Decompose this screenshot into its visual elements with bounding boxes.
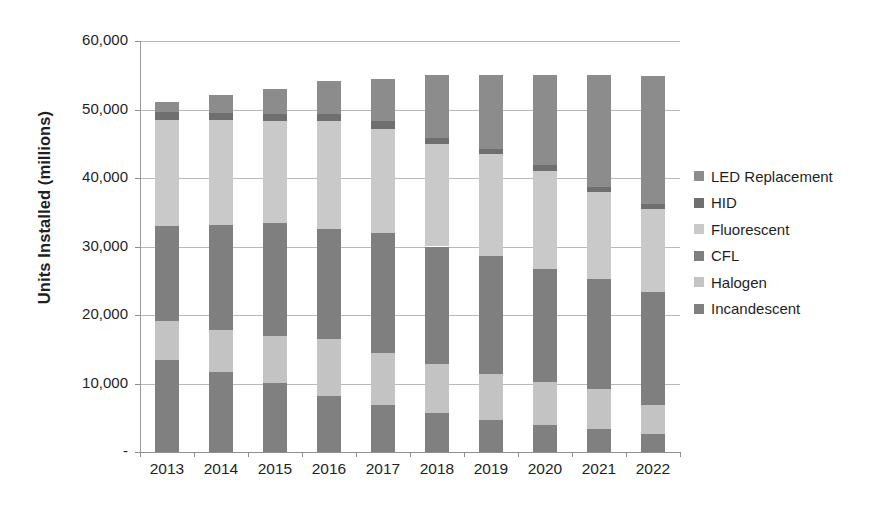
legend-item-incandescent[interactable]: Incandescent — [694, 296, 890, 323]
bar-segment-led-replacement[interactable] — [263, 89, 287, 114]
bar-segment-halogen[interactable] — [263, 336, 287, 383]
x-axis-tick-label: 2018 — [410, 460, 464, 478]
bar-segment-led-replacement[interactable] — [425, 75, 449, 138]
bar-segment-incandescent[interactable] — [641, 434, 665, 452]
bar-segment-fluorescent[interactable] — [263, 121, 287, 223]
bar-segment-fluorescent[interactable] — [425, 144, 449, 246]
bar-segment-hid[interactable] — [209, 113, 233, 121]
bar-segment-incandescent[interactable] — [155, 360, 179, 452]
bar-segment-led-replacement[interactable] — [587, 75, 611, 187]
bar-segment-fluorescent[interactable] — [209, 120, 233, 224]
legend-item-hid[interactable]: HID — [694, 190, 890, 217]
bar-segment-halogen[interactable] — [209, 330, 233, 372]
bar-segment-incandescent[interactable] — [371, 405, 395, 452]
x-axis-tick-label: 2022 — [626, 460, 680, 478]
x-axis-tick — [626, 452, 627, 457]
legend-item-halogen[interactable]: Halogen — [694, 269, 890, 296]
bar-segment-led-replacement[interactable] — [209, 95, 233, 113]
bar-segment-cfl[interactable] — [425, 247, 449, 365]
bar-segment-incandescent[interactable] — [425, 413, 449, 452]
bar-segment-incandescent[interactable] — [479, 420, 503, 452]
bar-segment-cfl[interactable] — [263, 223, 287, 335]
x-axis-tick-label: 2020 — [518, 460, 572, 478]
bar-segment-cfl[interactable] — [479, 256, 503, 374]
x-axis-tick — [302, 452, 303, 457]
bar-segment-halogen[interactable] — [479, 374, 503, 420]
bar-segment-incandescent[interactable] — [317, 396, 341, 452]
bar-2017[interactable] — [371, 41, 395, 452]
bar-segment-halogen[interactable] — [425, 364, 449, 413]
bar-segment-halogen[interactable] — [155, 321, 179, 359]
bar-segment-hid[interactable] — [479, 149, 503, 154]
bar-segment-fluorescent[interactable] — [371, 129, 395, 234]
legend-label: HID — [711, 194, 737, 211]
bar-segment-halogen[interactable] — [641, 405, 665, 434]
bar-segment-led-replacement[interactable] — [641, 76, 665, 204]
bar-segment-led-replacement[interactable] — [155, 102, 179, 112]
bar-2018[interactable] — [425, 41, 449, 452]
bar-segment-incandescent[interactable] — [209, 372, 233, 452]
bar-segment-hid[interactable] — [317, 114, 341, 121]
bar-segment-cfl[interactable] — [371, 233, 395, 353]
bar-segment-led-replacement[interactable] — [479, 75, 503, 149]
bar-segment-fluorescent[interactable] — [587, 192, 611, 280]
bar-segment-halogen[interactable] — [587, 389, 611, 429]
x-axis-tick — [194, 452, 195, 457]
legend-label: Incandescent — [711, 300, 800, 317]
plot-area — [140, 41, 680, 452]
x-axis-tick — [410, 452, 411, 457]
bar-segment-incandescent[interactable] — [587, 429, 611, 452]
bar-2014[interactable] — [209, 41, 233, 452]
y-axis-tick — [135, 110, 141, 111]
legend-item-fluorescent[interactable]: Fluorescent — [694, 216, 890, 243]
bar-2013[interactable] — [155, 41, 179, 452]
x-axis-tick — [572, 452, 573, 457]
bar-segment-cfl[interactable] — [533, 269, 557, 382]
bar-2022[interactable] — [641, 41, 665, 452]
bar-segment-hid[interactable] — [155, 112, 179, 120]
bar-segment-halogen[interactable] — [317, 339, 341, 396]
bar-2020[interactable] — [533, 41, 557, 452]
bar-segment-fluorescent[interactable] — [533, 171, 557, 269]
legend-swatch-icon — [694, 198, 704, 208]
bar-segment-hid[interactable] — [533, 165, 557, 171]
stacked-bar-chart: Units Installed (millions) 60,00050,0004… — [0, 0, 894, 513]
bar-segment-hid[interactable] — [587, 187, 611, 192]
bar-2021[interactable] — [587, 41, 611, 452]
y-axis-tick-label: 10,000 — [36, 374, 128, 391]
bar-segment-led-replacement[interactable] — [317, 81, 341, 114]
bar-segment-halogen[interactable] — [533, 382, 557, 425]
bar-segment-led-replacement[interactable] — [371, 79, 395, 121]
bar-segment-incandescent[interactable] — [263, 383, 287, 452]
x-axis-tick-label: 2013 — [140, 460, 194, 478]
legend-swatch-icon — [694, 304, 704, 314]
y-axis-tick-label: - — [36, 442, 128, 459]
bar-segment-fluorescent[interactable] — [479, 154, 503, 256]
bar-segment-cfl[interactable] — [317, 229, 341, 339]
y-axis-tick-label: 60,000 — [36, 31, 128, 48]
bar-segment-cfl[interactable] — [209, 225, 233, 330]
bar-2019[interactable] — [479, 41, 503, 452]
bar-segment-halogen[interactable] — [371, 353, 395, 404]
x-axis-labels: 2013201420152016201720182019202020212022 — [140, 460, 680, 486]
bar-2016[interactable] — [317, 41, 341, 452]
bar-segment-fluorescent[interactable] — [317, 121, 341, 229]
x-axis-tick — [680, 452, 681, 457]
bar-segment-hid[interactable] — [425, 138, 449, 144]
bar-2015[interactable] — [263, 41, 287, 452]
x-axis-tick-label: 2017 — [356, 460, 410, 478]
bar-segment-cfl[interactable] — [155, 226, 179, 321]
bar-segment-cfl[interactable] — [641, 292, 665, 405]
bar-segment-fluorescent[interactable] — [155, 120, 179, 226]
legend-item-led-replacement[interactable]: LED Replacement — [694, 163, 890, 190]
bar-segment-incandescent[interactable] — [533, 425, 557, 452]
bar-segment-cfl[interactable] — [587, 279, 611, 389]
x-axis-tick — [248, 452, 249, 457]
bar-segment-led-replacement[interactable] — [533, 75, 557, 165]
bar-segment-hid[interactable] — [641, 204, 665, 209]
bar-segment-fluorescent[interactable] — [641, 209, 665, 292]
y-axis-tick-label: 30,000 — [36, 237, 128, 254]
legend-item-cfl[interactable]: CFL — [694, 243, 890, 270]
bar-segment-hid[interactable] — [371, 121, 395, 129]
bar-segment-hid[interactable] — [263, 114, 287, 122]
